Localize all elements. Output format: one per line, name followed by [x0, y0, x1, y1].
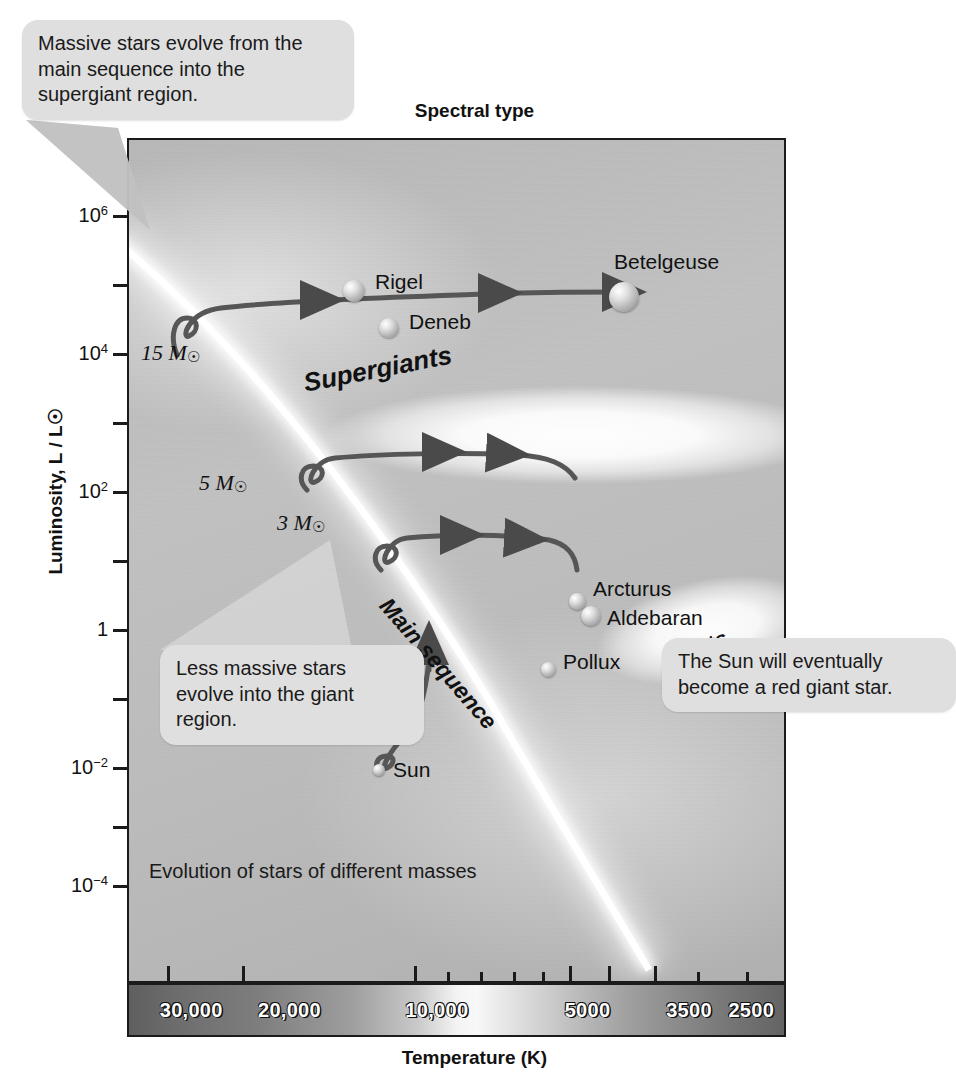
- temp-tick-minor: [447, 972, 450, 983]
- y-tick-label-1em4: 10−4: [8, 873, 108, 898]
- sun-symbol: ☉: [312, 519, 325, 535]
- y-tick-minor: [113, 826, 128, 829]
- temp-label-10000: 10,000: [405, 999, 468, 1022]
- temperature-bar: 30,000 20,000 10,000 5000 3500 2500: [127, 983, 786, 1037]
- star-dot-deneb: [379, 318, 399, 338]
- y-tick-minor: [113, 422, 128, 425]
- callout-sun-red-giant: The Sun will eventually become a red gia…: [662, 638, 956, 712]
- star-dot-pollux: [541, 662, 556, 677]
- star-dot-sun: [373, 764, 385, 776]
- mass-label-15: 15 M☉: [141, 340, 200, 366]
- star-dot-rigel: [343, 280, 365, 302]
- temp-tick-major: [414, 966, 417, 983]
- temp-label-3500: 3500: [666, 999, 712, 1022]
- diagram-caption: Evolution of stars of different masses: [149, 858, 477, 884]
- temp-label-2500: 2500: [728, 999, 774, 1022]
- mass-label-5-text: 5 M: [199, 470, 234, 495]
- y-tick-major: [113, 885, 128, 888]
- mass-label-3: 3 M☉: [277, 510, 325, 536]
- star-label-rigel: Rigel: [375, 270, 423, 294]
- temp-tick-major: [167, 966, 170, 983]
- y-tick-major: [113, 629, 128, 632]
- y-tick-minor: [113, 698, 128, 701]
- callout-massive-stars: Massive stars evolve from the main seque…: [22, 20, 354, 120]
- temp-tick-major: [242, 966, 245, 983]
- temp-tick-major: [569, 966, 572, 983]
- temp-tick-minor: [542, 972, 545, 983]
- star-label-arcturus: Arcturus: [593, 577, 671, 601]
- star-label-betelgeuse: Betelgeuse: [614, 250, 719, 274]
- star-label-deneb: Deneb: [409, 310, 471, 334]
- temp-tick-major: [608, 966, 611, 983]
- temp-tick-minor: [480, 972, 483, 983]
- sun-symbol: ☉: [234, 479, 247, 495]
- star-label-pollux: Pollux: [563, 650, 620, 674]
- mass-label-5: 5 M☉: [199, 470, 247, 496]
- mass-label-3-text: 3 M: [277, 510, 312, 535]
- y-tick-minor: [113, 284, 128, 287]
- mass-label-15-text: 15 M: [141, 340, 187, 365]
- y-tick-major: [113, 215, 128, 218]
- plot-area: Rigel Deneb Betelgeuse Arcturus Aldebara…: [127, 138, 786, 983]
- temp-label-30000: 30,000: [160, 999, 223, 1022]
- y-tick-minor: [113, 560, 128, 563]
- temp-label-5000: 5000: [565, 999, 611, 1022]
- star-label-sun: Sun: [393, 758, 430, 782]
- temp-tick-minor: [746, 972, 749, 983]
- temp-tick-major: [654, 966, 657, 983]
- y-axis-title: Luminosity, L / L☉: [44, 342, 67, 642]
- star-dot-betelgeuse: [609, 282, 639, 312]
- y-tick-major: [113, 767, 128, 770]
- star-dot-aldebaran: [581, 606, 601, 626]
- temp-tick-minor: [697, 972, 700, 983]
- sun-symbol: ☉: [187, 349, 200, 365]
- x-axis-title: Temperature (K): [0, 1047, 949, 1069]
- star-dot-arcturus: [569, 593, 586, 610]
- star-label-aldebaran: Aldebaran: [607, 606, 703, 630]
- temp-tick-minor: [513, 972, 516, 983]
- callout-less-massive: Less massive stars evolve into the giant…: [160, 645, 424, 745]
- y-tick-major: [113, 491, 128, 494]
- temp-label-20000: 20,000: [258, 999, 321, 1022]
- y-tick-label-1e6: 106: [8, 203, 108, 228]
- y-tick-major: [113, 353, 128, 356]
- temperature-tick-row: [127, 962, 786, 983]
- y-tick-label-1em2: 10−2: [8, 755, 108, 780]
